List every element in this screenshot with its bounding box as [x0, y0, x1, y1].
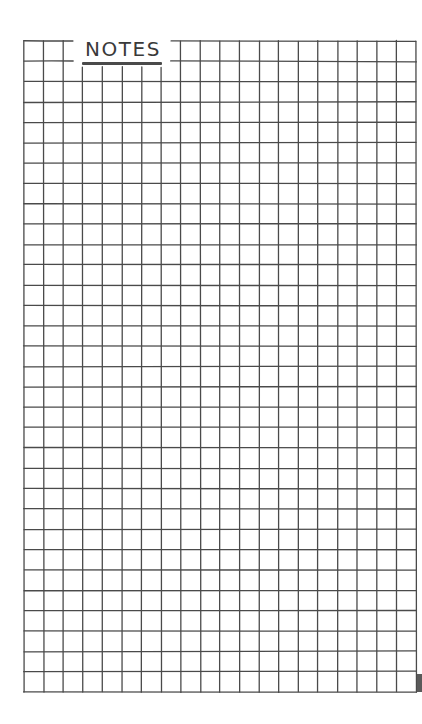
page-title: NOTES	[80, 38, 166, 60]
graph-paper-grid	[0, 0, 422, 724]
notes-page: NOTES	[0, 0, 422, 724]
title-underline	[82, 62, 162, 65]
